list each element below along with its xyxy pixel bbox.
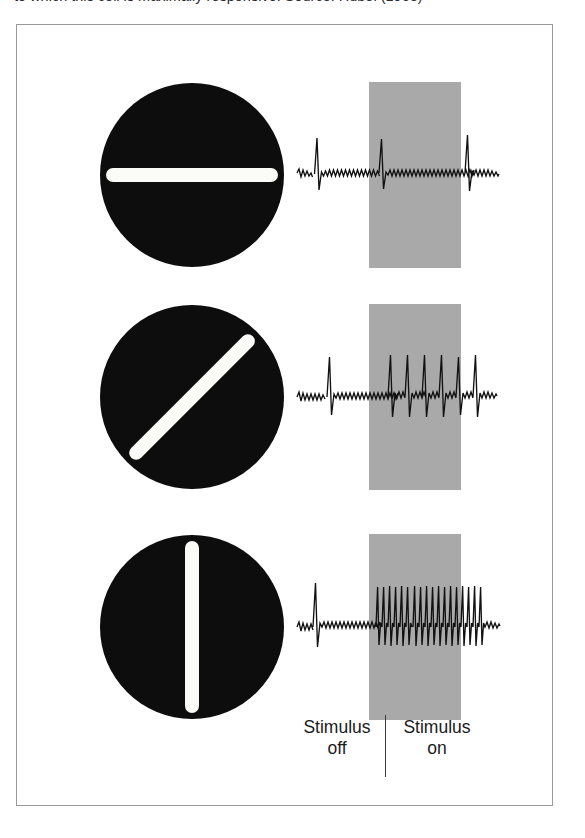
label-divider	[385, 715, 386, 777]
label-stimulus-off-line2: off	[291, 738, 383, 759]
figure-caption-clip: to which this cell is maximally responsi…	[0, 0, 585, 11]
stimulus-bar-horizontal	[106, 168, 278, 182]
stimulus-bar-vertical	[185, 541, 199, 713]
receptive-field-circle-vertical	[100, 535, 284, 719]
stimulus-row-oblique	[17, 271, 554, 505]
receptive-field-circle-oblique	[100, 305, 284, 489]
receptive-field-circle-horizontal	[100, 83, 284, 267]
spike-trace-vertical	[297, 535, 502, 719]
figure-inner: Stimulus off Stimulus on	[17, 25, 552, 805]
figure-caption-text: to which this cell is maximally responsi…	[14, 0, 574, 4]
spike-trace-horizontal	[297, 83, 502, 267]
spike-trace-oblique	[297, 305, 502, 489]
stimulus-bar-oblique	[126, 331, 258, 463]
label-stimulus-on-line1: Stimulus	[403, 717, 470, 737]
label-stimulus-off-line1: Stimulus	[303, 717, 370, 737]
figure-frame: Stimulus off Stimulus on	[16, 24, 553, 806]
stimulus-row-horizontal	[17, 25, 554, 271]
label-stimulus-on-line2: on	[391, 738, 483, 759]
label-stimulus-on: Stimulus on	[391, 717, 483, 759]
label-stimulus-off: Stimulus off	[291, 717, 383, 759]
stimulus-axis-labels: Stimulus off Stimulus on	[291, 717, 531, 792]
